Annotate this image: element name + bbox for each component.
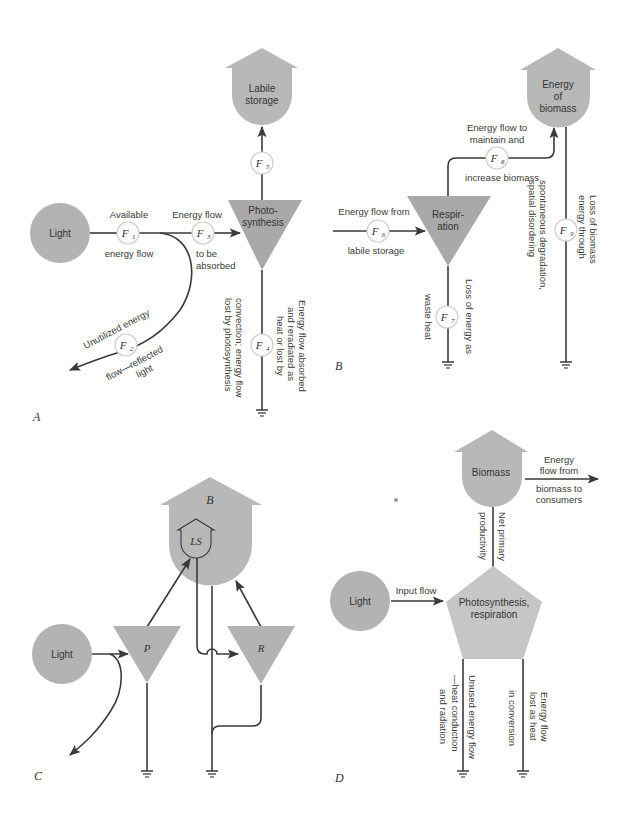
ls-label: LS — [189, 535, 202, 547]
stray-dot — [394, 498, 398, 502]
arrow-p-ls — [147, 559, 190, 627]
f7-subscript: 7 — [451, 317, 455, 325]
r-label: R — [257, 642, 265, 654]
f6-symbol: F — [371, 225, 379, 237]
f9-label-left-1: spontaneous degradation, — [538, 180, 549, 290]
f1-label-above: Available — [110, 209, 148, 220]
panel-label-d: D — [334, 771, 344, 785]
f4-label-right-1: Energy flow absorbed — [297, 300, 308, 392]
f7-label-left: waste heat — [423, 293, 434, 340]
f5-symbol: F — [255, 157, 263, 169]
f2-symbol: F — [119, 339, 127, 351]
ground-icon — [256, 410, 268, 416]
process-label-b1: Respir- — [432, 209, 464, 220]
f3-label-above: Energy flow — [172, 209, 222, 220]
f6-label-above: Energy flow from — [338, 206, 409, 217]
biomass-label-d: Biomass — [472, 467, 510, 478]
ground-icon — [457, 771, 469, 777]
f4-symbol: F — [255, 339, 263, 351]
energy-flow-diagram: Light Labile storage Photo- synthesis F … — [0, 0, 633, 830]
f9-label-left-2: spatial disordering — [527, 180, 538, 257]
f2-subscript: 2 — [130, 345, 134, 353]
panel-label-a: A — [32, 410, 41, 424]
storage-label-a1: Labile — [249, 83, 276, 94]
process-label-b2: ation — [437, 221, 459, 232]
f8-symbol: F — [490, 152, 498, 164]
unused-flow-label-3: and radiation — [438, 689, 449, 744]
f3-label-below-2: absorbed — [196, 260, 236, 271]
ground-icon — [442, 362, 454, 368]
storage-label-b2: of — [554, 91, 563, 102]
f4-label-right-2: and reradiated as — [286, 307, 297, 381]
light-label-d: Light — [349, 596, 371, 607]
unused-flow-label-1: Unused energy flow — [467, 675, 478, 759]
f3-subscript: 3 — [206, 233, 211, 241]
p-label: P — [143, 642, 151, 654]
light-label-a: Light — [49, 228, 71, 239]
f9-symbol: F — [559, 224, 567, 236]
ground-icon — [560, 362, 572, 368]
heat-loss-label-3: in conversion — [507, 690, 518, 746]
panel-d: Biomass Energy flow from biomass to cons… — [330, 430, 598, 785]
f7-label-right: Loss of energy as — [464, 279, 475, 354]
panel-label-c: C — [34, 769, 43, 783]
f8-label-above-2: maintain and — [470, 134, 524, 145]
f1-symbol: F — [121, 227, 129, 239]
f9-label-right-2: energy through — [577, 195, 588, 259]
biomass-label-c: B — [206, 493, 214, 507]
panel-b: Energy of biomass Respir- ation F 6 Ener… — [333, 48, 599, 373]
f1-label-below: energy flow — [105, 248, 154, 259]
storage-label-b1: Energy — [542, 79, 574, 90]
f8-label-above-1: Energy flow to — [467, 122, 527, 133]
consumer-flow-1: Energy — [544, 454, 574, 465]
line-r-ground — [212, 685, 261, 734]
process-label-a1: Photo- — [248, 205, 277, 216]
panel-c: B LS Light P R C — [32, 477, 295, 783]
consumer-flow-3: biomass to — [536, 483, 582, 494]
f9-label-right-1: Loss of biomass — [588, 195, 599, 264]
panel-label-b: B — [335, 359, 343, 373]
f6-subscript: 6 — [382, 231, 386, 239]
net-primary-label-1: Net primary — [497, 512, 508, 561]
heat-loss-label-2: lost as heat — [528, 692, 539, 741]
f1-subscript: 1 — [132, 233, 136, 241]
light-label-c: Light — [51, 649, 73, 660]
process-label-d1: Photosynthesis, — [459, 597, 530, 608]
heat-loss-label-1: Energy flow — [539, 692, 550, 742]
panel-a: Light Labile storage Photo- synthesis F … — [30, 48, 308, 424]
consumer-flow-4: consumers — [536, 494, 583, 505]
f9-subscript: 9 — [570, 230, 574, 238]
f6-label-below: labile storage — [348, 245, 405, 256]
process-label-d2: respiration — [471, 609, 518, 620]
input-flow-label: Input flow — [396, 585, 437, 596]
consumer-flow-2: flow from — [540, 465, 579, 476]
f3-symbol: F — [196, 227, 204, 239]
f8-subscript: 8 — [501, 158, 505, 166]
arrow-r-b — [236, 581, 261, 627]
ground-icon — [517, 771, 529, 777]
respiration-triangle-c — [227, 626, 295, 684]
storage-label-b3: biomass — [539, 103, 576, 114]
unused-flow-label-2: —heat conduction — [450, 675, 461, 752]
f4-subscript: 4 — [266, 345, 270, 353]
ground-icon — [206, 771, 218, 777]
ground-icon — [141, 771, 153, 777]
f4-label-left-1: convection; energy flow — [234, 298, 245, 397]
f5-subscript: 5 — [266, 163, 270, 171]
process-label-a2: synthesis — [242, 217, 284, 228]
f7-symbol: F — [440, 311, 448, 323]
storage-label-a2: storage — [245, 95, 279, 106]
f4-label-left-2: lost by photosynthesis — [223, 298, 234, 392]
net-primary-label-2: productivity — [478, 512, 489, 560]
f3-label-below-1: to be — [196, 248, 217, 259]
f4-label-right-3: heat or lost by — [275, 316, 286, 376]
